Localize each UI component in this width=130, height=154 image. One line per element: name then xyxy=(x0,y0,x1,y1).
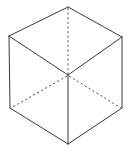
cube-diagram xyxy=(0,0,130,154)
figure-canvas xyxy=(0,0,130,154)
